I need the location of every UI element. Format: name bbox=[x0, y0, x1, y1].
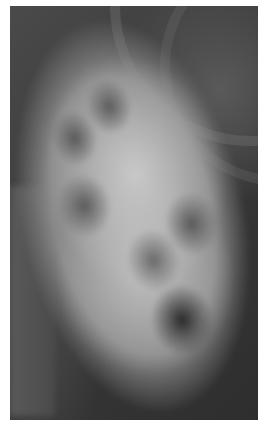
radiograph-image bbox=[10, 6, 258, 420]
